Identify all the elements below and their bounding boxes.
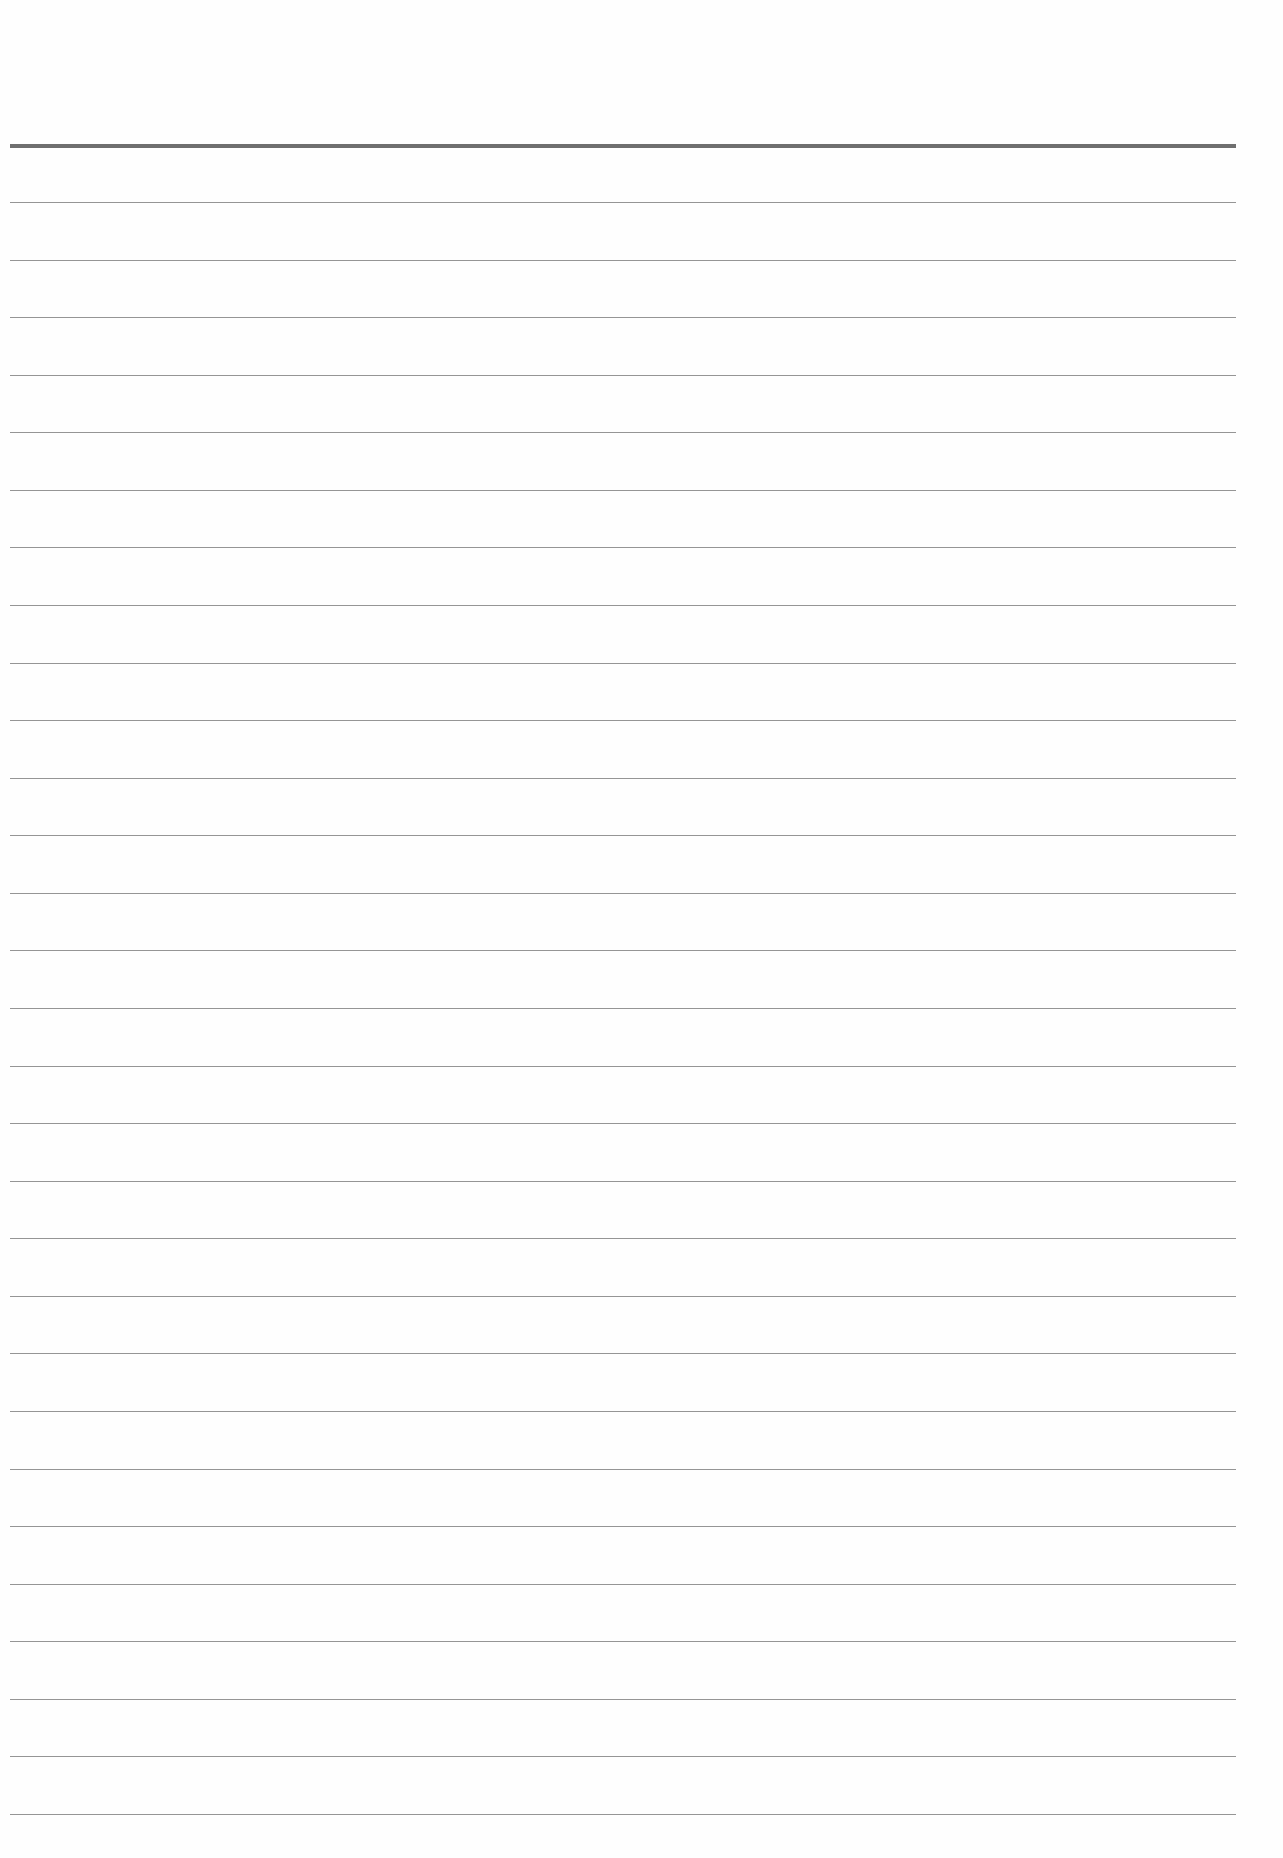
ruled-line [10,1181,1236,1182]
ruled-line [10,1123,1236,1124]
ruled-line [10,950,1236,951]
ruled-line [10,490,1236,491]
ruled-line [10,1526,1236,1527]
ruled-line [10,1411,1236,1412]
ruled-line [10,1469,1236,1470]
ruled-line [10,1008,1236,1009]
ruled-lines [0,0,1283,1858]
ruled-line [10,1296,1236,1297]
ruled-line [10,547,1236,548]
ruled-line [10,1238,1236,1239]
ruled-line [10,317,1236,318]
ruled-line [10,432,1236,433]
lined-paper-page [0,0,1283,1858]
ruled-line [10,1066,1236,1067]
ruled-line [10,202,1236,203]
ruled-line [10,1756,1236,1757]
ruled-line [10,1641,1236,1642]
ruled-line [10,375,1236,376]
ruled-line [10,720,1236,721]
ruled-line [10,1814,1236,1815]
ruled-line [10,605,1236,606]
ruled-line [10,663,1236,664]
ruled-line [10,778,1236,779]
ruled-line [10,1353,1236,1354]
ruled-line [10,835,1236,836]
ruled-line [10,260,1236,261]
ruled-line [10,1584,1236,1585]
ruled-line [10,1699,1236,1700]
ruled-line [10,893,1236,894]
